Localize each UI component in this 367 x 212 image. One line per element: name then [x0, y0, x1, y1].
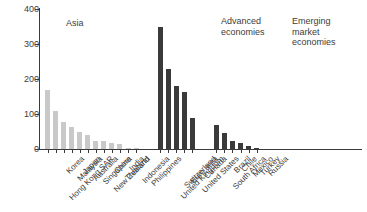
- bar: [246, 146, 251, 149]
- x-tick-mark: [216, 150, 217, 153]
- x-tick-mark: [176, 150, 177, 153]
- bar: [77, 132, 82, 149]
- x-tick-mark: [232, 150, 233, 153]
- bar: [254, 148, 259, 149]
- x-tick-mark: [80, 150, 81, 153]
- x-tick-mark: [192, 150, 193, 153]
- x-tick-mark: [104, 150, 105, 153]
- bar: [101, 141, 106, 149]
- y-tick-label: 100: [5, 110, 39, 119]
- x-tick-mark: [241, 150, 242, 153]
- x-tick-mark: [120, 150, 121, 153]
- bar: [222, 133, 227, 149]
- bar: [117, 144, 122, 149]
- bar: [214, 125, 219, 150]
- bar: [85, 135, 90, 149]
- y-tick-label: 200: [5, 75, 39, 84]
- x-tick-mark: [257, 150, 258, 153]
- bar: [134, 148, 139, 149]
- bar: [238, 143, 243, 149]
- bar: [158, 27, 163, 150]
- bar: [230, 141, 235, 149]
- bar: [182, 92, 187, 149]
- x-tick-mark: [48, 150, 49, 153]
- x-tick-mark: [72, 150, 73, 153]
- bar: [45, 90, 50, 149]
- bar: [126, 148, 131, 149]
- bar: [53, 111, 58, 149]
- group-annotation-emerging: Emerging market economies: [292, 16, 336, 48]
- y-tick-label: 400: [5, 5, 39, 14]
- bar: [69, 127, 74, 149]
- bar: [166, 69, 171, 150]
- y-tick-label: 0: [5, 145, 39, 154]
- bar: [174, 86, 179, 149]
- bar-chart: 0100200300400 Hong Kong SARKoreaMalaysia…: [0, 0, 367, 212]
- x-tick-mark: [128, 150, 129, 153]
- x-tick-mark: [168, 150, 169, 153]
- x-tick-mark: [88, 150, 89, 153]
- x-tick-mark: [160, 150, 161, 153]
- x-tick-mark: [96, 150, 97, 153]
- x-tick-mark: [184, 150, 185, 153]
- x-tick-mark: [224, 150, 225, 153]
- x-tick-mark: [249, 150, 250, 153]
- group-annotation-asia: Asia: [66, 18, 84, 29]
- bar: [109, 143, 114, 149]
- x-tick-mark: [136, 150, 137, 153]
- group-annotation-advanced: Advanced economies: [221, 16, 265, 37]
- x-tick-mark: [56, 150, 57, 153]
- bar: [93, 141, 98, 149]
- y-tick-label: 300: [5, 40, 39, 49]
- bar: [61, 122, 66, 149]
- x-tick-mark: [112, 150, 113, 153]
- bar: [190, 118, 195, 149]
- x-tick-mark: [64, 150, 65, 153]
